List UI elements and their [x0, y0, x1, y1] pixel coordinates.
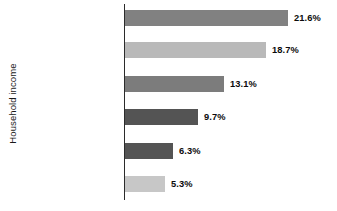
bar-chart: Household income Less than $25,00021.6%$… — [0, 0, 337, 211]
bar-value-label: 6.3% — [179, 146, 201, 156]
bar — [125, 176, 165, 192]
y-axis-line — [124, 4, 125, 200]
bar — [125, 10, 288, 26]
bar-value-label: 18.7% — [272, 45, 299, 55]
bar — [125, 76, 224, 92]
bar-value-label: 13.1% — [230, 79, 257, 89]
bar-value-label: 9.7% — [204, 112, 226, 122]
bar — [125, 42, 266, 58]
bar-value-label: 21.6% — [294, 13, 321, 23]
bar-value-label: 5.3% — [171, 179, 193, 189]
bar — [125, 143, 173, 159]
plot-area: Less than $25,00021.6%$25,000 to $49,999… — [0, 0, 337, 211]
bar — [125, 109, 198, 125]
